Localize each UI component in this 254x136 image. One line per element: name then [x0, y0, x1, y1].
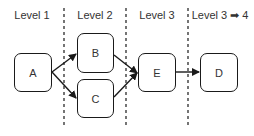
node-d[interactable]: D [200, 53, 238, 92]
node-c[interactable]: C [77, 79, 114, 118]
node-a[interactable]: A [14, 53, 52, 92]
node-b[interactable]: B [77, 33, 114, 73]
level-3-to-4-label: Level 3 ➡ 4 [192, 9, 249, 22]
node-e-label: E [153, 67, 160, 79]
node-a-label: A [29, 67, 36, 79]
node-d-label: D [215, 67, 223, 79]
level-1-label: Level 1 [14, 9, 49, 21]
node-e[interactable]: E [138, 53, 176, 92]
level-3-label: Level 3 [139, 9, 174, 21]
level-2-label: Level 2 [77, 9, 112, 21]
node-b-label: B [92, 47, 99, 59]
node-c-label: C [92, 93, 100, 105]
